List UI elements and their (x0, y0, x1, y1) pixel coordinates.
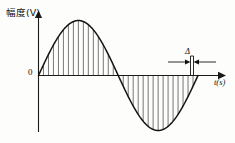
y-axis-label: 幅度(V) (6, 8, 40, 18)
origin-label: 0 (28, 68, 33, 77)
sine-sampling-figure: 幅度(V) t(s) 0 Δ (0, 0, 235, 143)
delta-symbol-label: Δ (185, 47, 190, 56)
figure-canvas (0, 0, 235, 143)
delta-width-marker (168, 56, 216, 76)
x-axis-label: t(s) (214, 78, 225, 87)
